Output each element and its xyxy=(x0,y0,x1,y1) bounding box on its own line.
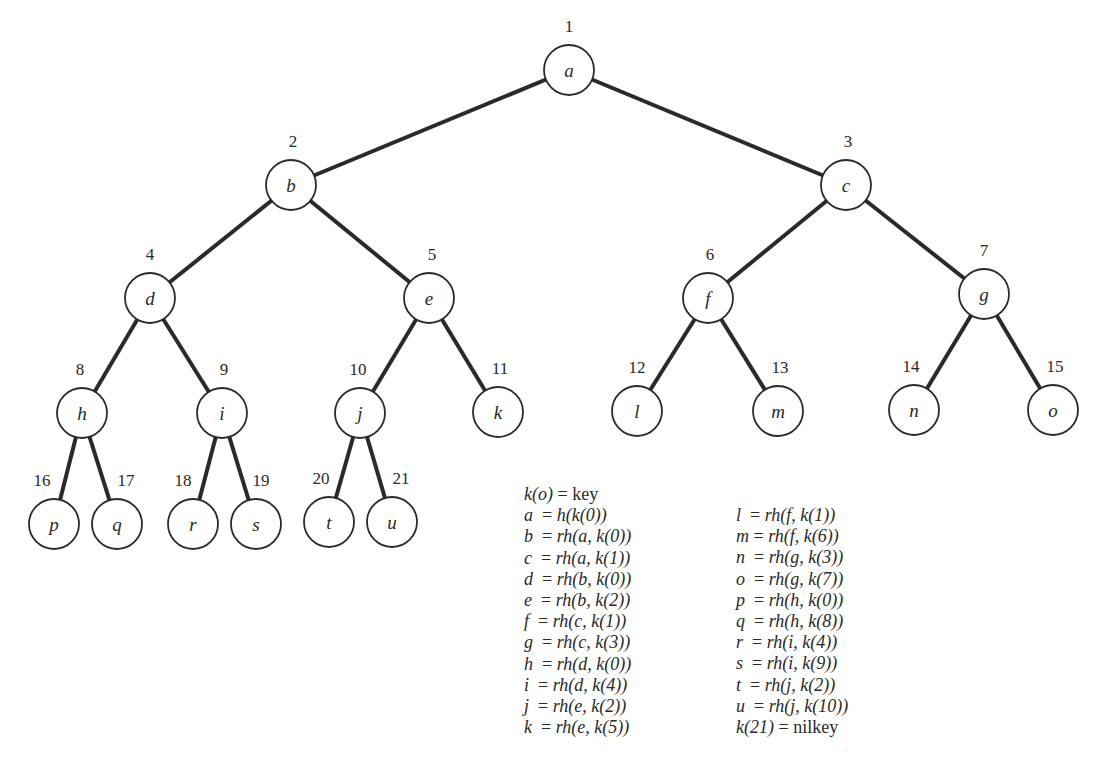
equation-rhs: rh(i, k(4)) xyxy=(767,632,838,653)
node-index-number: 12 xyxy=(629,358,646,377)
equals-sign: = xyxy=(538,505,557,526)
equation-lhs: t xyxy=(736,675,746,696)
equals-sign: = xyxy=(750,611,769,632)
tree-nodes: a1b2c3d4e5f6g7h8i9j10k11l12m13n14o15p16q… xyxy=(29,17,1078,549)
tree-edge-2-5 xyxy=(291,185,429,298)
equation-lhs: k xyxy=(524,717,537,738)
equation-rhs: rh(j, k(2)) xyxy=(765,675,836,696)
node-label: r xyxy=(189,514,197,535)
equation-lhs: g xyxy=(524,632,538,653)
node-label: u xyxy=(387,512,397,533)
node-index-number: 17 xyxy=(118,471,136,490)
equation-lhs: s xyxy=(736,653,748,674)
node-index-number: 10 xyxy=(350,360,367,379)
equation-rhs: rh(h, k(0)) xyxy=(769,590,844,611)
legend-equation: i = rh(d, k(4)) xyxy=(524,675,631,696)
equation-rhs: rh(d, k(4)) xyxy=(553,675,628,696)
equals-sign: = xyxy=(774,717,793,738)
node-index-number: 13 xyxy=(772,358,789,377)
equation-rhs: rh(i, k(9)) xyxy=(767,653,838,674)
tree-node-u: u21 xyxy=(367,469,417,547)
equation-rhs: nilkey xyxy=(793,717,838,738)
equals-sign: = xyxy=(534,675,553,696)
tree-node-o: o15 xyxy=(1028,357,1078,435)
equation-rhs: rh(g, k(7)) xyxy=(769,569,844,590)
node-index-number: 21 xyxy=(393,469,410,488)
tree-node-g: g7 xyxy=(959,241,1009,319)
tree-node-k: k11 xyxy=(473,359,523,437)
equation-lhs: r xyxy=(736,632,748,653)
equation-lhs: q xyxy=(736,611,750,632)
node-index-number: 3 xyxy=(844,132,853,151)
legend-equation: k(o) = key xyxy=(524,484,631,505)
node-label: h xyxy=(77,403,87,424)
equals-sign: = xyxy=(538,632,557,653)
equals-sign: = xyxy=(534,696,553,717)
equals-sign: = xyxy=(553,484,572,505)
tree-node-e: e5 xyxy=(404,245,454,323)
equation-lhs: d xyxy=(524,569,538,590)
equation-lhs: o xyxy=(736,569,750,590)
equals-sign: = xyxy=(537,717,556,738)
equation-rhs: key xyxy=(572,484,598,505)
equation-rhs: rh(d, k(0)) xyxy=(557,654,632,675)
tree-node-b: b2 xyxy=(266,132,316,210)
legend-equation: e = rh(b, k(2)) xyxy=(524,590,631,611)
equation-lhs: m xyxy=(736,526,749,547)
equation-lhs: i xyxy=(524,675,534,696)
legend-equation: a = h(k(0)) xyxy=(524,505,631,526)
equation-lhs: k(21) xyxy=(736,717,774,738)
node-label: i xyxy=(219,403,224,424)
tree-node-r: r18 xyxy=(168,471,218,549)
node-index-number: 6 xyxy=(706,245,715,264)
legend-equation: q = rh(h, k(8)) xyxy=(736,611,848,632)
equation-lhs: b xyxy=(524,526,538,547)
equals-sign: = xyxy=(750,569,769,590)
node-index-number: 7 xyxy=(980,241,989,260)
legend-equation: d = rh(b, k(0)) xyxy=(524,569,631,590)
equation-rhs: rh(c, k(1)) xyxy=(553,611,627,632)
equation-rhs: rh(f, k(6)) xyxy=(768,526,839,547)
node-index-number: 1 xyxy=(565,17,574,36)
node-index-number: 11 xyxy=(492,359,508,378)
equation-lhs: p xyxy=(736,590,750,611)
tree-node-i: i9 xyxy=(197,360,247,438)
equals-sign: = xyxy=(537,590,556,611)
legend-equation: f = rh(c, k(1)) xyxy=(524,611,631,632)
node-index-number: 19 xyxy=(253,471,270,490)
equation-rhs: rh(a, k(1)) xyxy=(556,548,631,569)
equation-rhs: rh(a, k(0)) xyxy=(557,526,632,547)
tree-edges xyxy=(54,70,1053,524)
tree-node-j: j10 xyxy=(335,360,385,438)
tree-node-a: a1 xyxy=(544,17,594,95)
node-label: c xyxy=(842,175,851,196)
equals-sign: = xyxy=(750,590,769,611)
node-label: e xyxy=(425,288,433,309)
legend-equation: k(21) = nilkey xyxy=(736,717,848,738)
tree-node-n: n14 xyxy=(889,357,939,435)
node-index-number: 16 xyxy=(34,471,51,490)
equation-lhs: n xyxy=(736,547,750,568)
equation-rhs: rh(c, k(3)) xyxy=(557,632,631,653)
tree-edge-3-6 xyxy=(708,185,846,298)
equals-sign: = xyxy=(748,653,767,674)
equation-rhs: rh(b, k(0)) xyxy=(557,569,632,590)
node-label: b xyxy=(286,175,296,196)
equals-sign: = xyxy=(537,548,556,569)
tree-node-c: c3 xyxy=(821,132,871,210)
node-index-number: 20 xyxy=(313,469,330,488)
equals-sign: = xyxy=(538,654,557,675)
equation-lhs: e xyxy=(524,590,537,611)
legend-left-column: k(o) = keya = h(k(0))b = rh(a, k(0))c = … xyxy=(524,484,631,738)
equation-lhs: u xyxy=(736,696,750,717)
tree-node-q: q17 xyxy=(92,471,142,549)
legend-equation: t = rh(j, k(2)) xyxy=(736,675,848,696)
tree-edge-1-2 xyxy=(291,70,569,185)
tree-node-m: m13 xyxy=(753,358,803,436)
equation-rhs: rh(e, k(2)) xyxy=(553,696,627,717)
legend-equation: r = rh(i, k(4)) xyxy=(736,632,848,653)
legend-equation: p = rh(h, k(0)) xyxy=(736,590,848,611)
tree-node-t: t20 xyxy=(304,469,354,547)
equals-sign: = xyxy=(748,632,767,653)
node-label: s xyxy=(252,514,259,535)
